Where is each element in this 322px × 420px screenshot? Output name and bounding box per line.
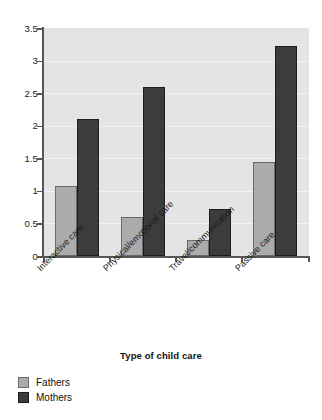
y-tick-label: 1 <box>0 186 38 196</box>
y-tick-label: 3.5 <box>0 24 38 34</box>
y-tick-label: 2 <box>0 121 38 131</box>
y-tick-label: 2.5 <box>0 89 38 99</box>
legend-item-fathers: Fathers <box>18 375 72 390</box>
y-tick-mark <box>37 158 43 160</box>
y-tick-label: 0.5 <box>0 219 38 229</box>
legend-label-mothers: Mothers <box>36 392 72 403</box>
y-tick-mark <box>37 61 43 63</box>
gridline <box>43 61 309 62</box>
y-tick-label: 1.5 <box>0 154 38 164</box>
bar-mothers-interactive-care <box>77 119 99 256</box>
y-tick-mark <box>37 28 43 30</box>
y-tick-mark <box>37 126 43 128</box>
y-tick-mark <box>37 191 43 193</box>
legend-swatch-mothers-icon <box>18 392 29 403</box>
legend-swatch-fathers-icon <box>18 377 29 388</box>
legend: Fathers Mothers <box>18 375 72 405</box>
x-axis-title: Type of child care <box>0 350 322 361</box>
legend-label-fathers: Fathers <box>36 377 70 388</box>
y-tick-label: 3 <box>0 56 38 66</box>
grouped-bar-chart: 3.5 3 2.5 2 1.5 1 0.5 0 Interactive care… <box>0 0 322 420</box>
plot-area <box>43 28 309 256</box>
y-tick-mark <box>37 93 43 95</box>
gridline <box>43 93 309 94</box>
y-tick-mark <box>37 223 43 225</box>
legend-item-mothers: Mothers <box>18 390 72 405</box>
bar-mothers-passive-care <box>275 46 297 256</box>
x-tick-mark <box>308 256 310 262</box>
y-tick-label: 0 <box>0 252 38 262</box>
